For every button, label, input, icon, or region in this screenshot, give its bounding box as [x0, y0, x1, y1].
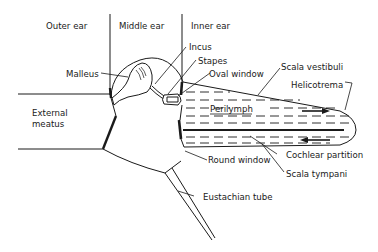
label-helicotrema: Helicotrema [291, 80, 343, 90]
ear-anatomy-diagram: Outer ear Middle ear Inner ear Malleus I… [0, 0, 378, 252]
label-oval-window: Oval window [209, 69, 264, 79]
label-perilymph: Perilymph [210, 104, 253, 114]
label-malleus: Malleus [66, 69, 99, 79]
label-external-meatus-2: meatus [32, 119, 65, 129]
label-external-meatus-1: External [32, 108, 68, 118]
malleus-shape [112, 63, 152, 105]
round-window [179, 120, 181, 139]
middle-ear-floor [103, 149, 181, 173]
perilymph-dashes [186, 92, 352, 143]
label-scala-tympani: Scala tympani [286, 169, 347, 179]
label-middle-ear: Middle ear [119, 21, 165, 31]
label-cochlear-partition: Cochlear partition [286, 150, 363, 160]
label-round-window: Round window [208, 155, 271, 165]
label-incus: Incus [189, 42, 212, 52]
label-inner-ear: Inner ear [191, 21, 231, 31]
label-stapes: Stapes [198, 56, 228, 66]
eustachian-tube [165, 168, 215, 240]
flow-arrow-left [304, 130, 333, 140]
label-eustachian-tube: Eustachian tube [203, 192, 273, 202]
label-outer-ear: Outer ear [46, 21, 88, 31]
label-scala-vestibuli: Scala vestibuli [281, 62, 343, 72]
